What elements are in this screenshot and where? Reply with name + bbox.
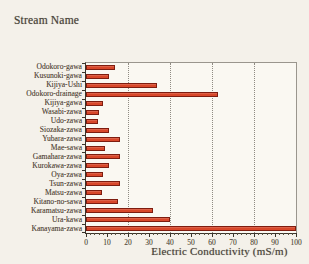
- gridline-x-60: [212, 63, 213, 233]
- y-axis-tick: [82, 90, 86, 91]
- x-axis-minor-tick: [162, 233, 163, 235]
- x-axis-minor-tick: [183, 233, 184, 235]
- x-tick-label: 10: [98, 238, 116, 247]
- bar-matsu-zawa: [86, 190, 102, 195]
- category-label: Udo-zawa: [2, 117, 82, 125]
- x-axis-minor-tick: [115, 233, 116, 235]
- x-axis-minor-tick: [246, 233, 247, 235]
- x-axis-minor-tick: [187, 233, 188, 235]
- category-label: Kusunoki-gawa: [2, 72, 82, 80]
- x-axis-minor-tick: [241, 233, 242, 235]
- x-axis-minor-tick: [208, 233, 209, 235]
- y-axis-tick: [82, 144, 86, 145]
- category-label: Matsu-zawa: [2, 189, 82, 197]
- x-axis-minor-tick: [136, 233, 137, 235]
- category-label: Siozaka-zawa: [2, 126, 82, 134]
- x-axis-major-tick: [107, 233, 108, 237]
- bar-oya-zawa: [86, 172, 103, 177]
- x-axis-minor-tick: [99, 233, 100, 235]
- y-axis-tick: [82, 81, 86, 82]
- bar-kanayama-zawa: [86, 226, 296, 231]
- plot-area: Odokoro-gawaKusunoki-gawaKijiya-UshiOdok…: [85, 62, 297, 234]
- x-axis-minor-tick: [141, 233, 142, 235]
- bar-siozaka-zawa: [86, 128, 109, 133]
- x-axis-minor-tick: [199, 233, 200, 235]
- x-axis-minor-tick: [271, 233, 272, 235]
- category-label: Oya-zawa: [2, 171, 82, 179]
- x-axis-minor-tick: [292, 233, 293, 235]
- x-axis-minor-tick: [279, 233, 280, 235]
- y-axis-tick: [82, 63, 86, 64]
- bar-mae-sawa: [86, 146, 105, 151]
- y-axis-tick: [82, 170, 86, 171]
- category-label: Kitano-no-sawa: [2, 198, 82, 206]
- x-tick-label: 0: [77, 238, 95, 247]
- y-axis-tick: [82, 215, 86, 216]
- x-axis-major-tick: [233, 233, 234, 237]
- x-axis-minor-tick: [157, 233, 158, 235]
- y-axis-tick: [82, 108, 86, 109]
- category-label: Kurokawa-zawa: [2, 162, 82, 170]
- x-axis-minor-tick: [145, 233, 146, 235]
- x-axis-minor-tick: [216, 233, 217, 235]
- bar-udo-zawa: [86, 119, 98, 124]
- x-axis-minor-tick: [250, 233, 251, 235]
- x-axis-minor-tick: [283, 233, 284, 235]
- x-axis-minor-tick: [195, 233, 196, 235]
- bar-kurokawa-zawa: [86, 163, 109, 168]
- x-axis-minor-tick: [262, 233, 263, 235]
- y-axis-tick: [82, 117, 86, 118]
- bar-kitano-no-sawa: [86, 199, 118, 204]
- x-axis-minor-tick: [132, 233, 133, 235]
- category-label: Ura-kawa: [2, 216, 82, 224]
- bar-kijiya-ushi: [86, 83, 157, 88]
- x-axis-minor-tick: [204, 233, 205, 235]
- bar-odokoro-drainage: [86, 92, 218, 97]
- y-axis-tick: [82, 161, 86, 162]
- x-axis-minor-tick: [258, 233, 259, 235]
- bar-yubara-zawa: [86, 137, 120, 142]
- y-axis-tick: [82, 197, 86, 198]
- x-axis-major-tick: [128, 233, 129, 237]
- x-axis-major-tick: [86, 233, 87, 237]
- figure: Stream Name Odokoro-gawaKusunoki-gawaKij…: [0, 0, 309, 264]
- x-axis-minor-tick: [90, 233, 91, 235]
- gridline-x-40: [170, 63, 171, 233]
- x-axis-major-tick: [296, 233, 297, 237]
- x-axis-major-tick: [170, 233, 171, 237]
- x-axis-minor-tick: [120, 233, 121, 235]
- x-axis-major-tick: [254, 233, 255, 237]
- bar-gamahara-zawa: [86, 154, 120, 159]
- x-axis-minor-tick: [220, 233, 221, 235]
- y-axis-tick: [82, 72, 86, 73]
- x-axis-minor-tick: [153, 233, 154, 235]
- bar-tsun-zawa: [86, 181, 120, 186]
- x-axis-major-tick: [149, 233, 150, 237]
- bar-wasabi-zawa: [86, 110, 99, 115]
- x-axis-minor-tick: [225, 233, 226, 235]
- y-axis-tick: [82, 135, 86, 136]
- category-label: Yubara-zawa: [2, 135, 82, 143]
- bar-kusunoki-gawa: [86, 74, 109, 79]
- x-axis-major-tick: [212, 233, 213, 237]
- x-axis-major-tick: [275, 233, 276, 237]
- x-axis-minor-tick: [267, 233, 268, 235]
- x-axis-minor-tick: [178, 233, 179, 235]
- category-label: Kijiya-gawa: [2, 99, 82, 107]
- y-axis-tick: [82, 99, 86, 100]
- x-axis-minor-tick: [124, 233, 125, 235]
- bar-ura-kawa: [86, 217, 170, 222]
- x-axis-minor-tick: [111, 233, 112, 235]
- category-label: Karamatsu-zawa: [2, 207, 82, 215]
- x-axis-minor-tick: [94, 233, 95, 235]
- x-axis-title: Electric Conductivity (mS/m): [130, 245, 309, 257]
- x-axis-minor-tick: [288, 233, 289, 235]
- bar-karamatsu-zawa: [86, 208, 153, 213]
- x-axis-minor-tick: [237, 233, 238, 235]
- x-axis-minor-tick: [103, 233, 104, 235]
- category-label: Mae-sawa: [2, 144, 82, 152]
- y-axis-tick: [82, 179, 86, 180]
- bar-kijiya-gawa: [86, 101, 103, 106]
- y-axis-tick: [82, 152, 86, 153]
- category-label: Kijiya-Ushi: [2, 81, 82, 89]
